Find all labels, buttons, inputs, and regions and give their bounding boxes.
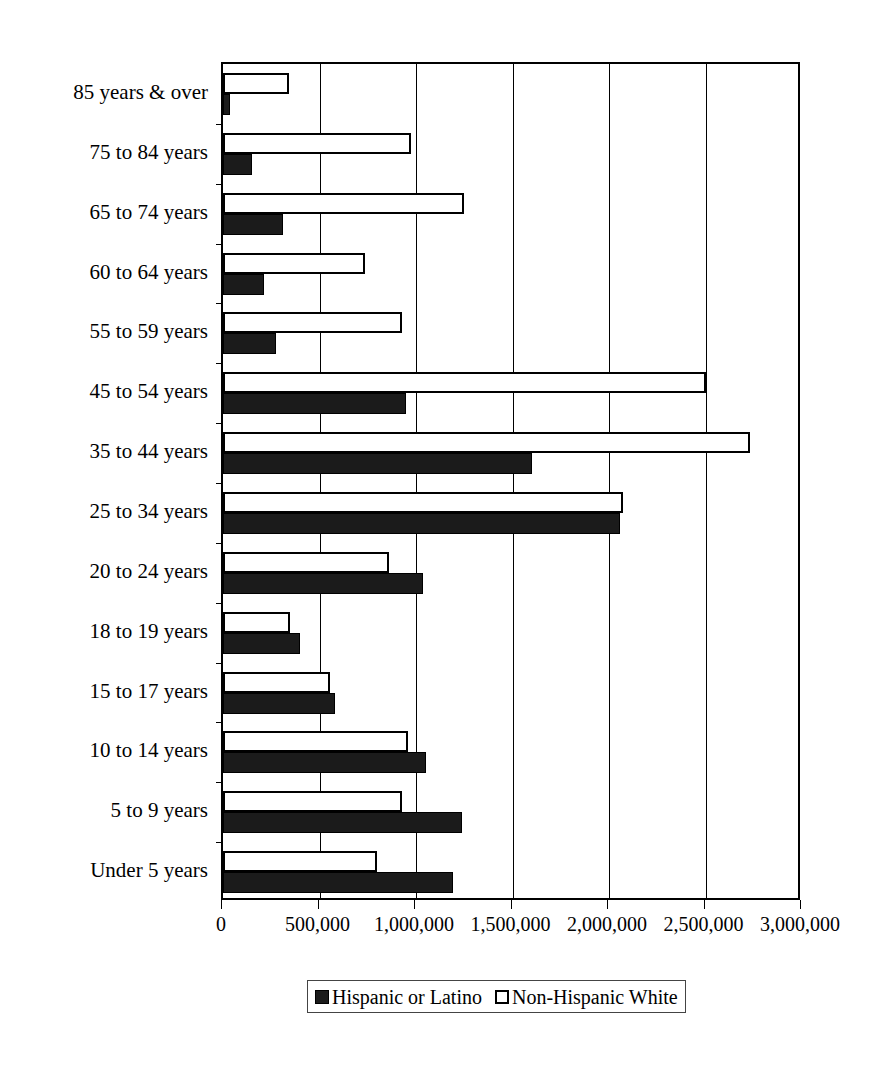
open-square-icon — [495, 990, 509, 1004]
x-axis-tick-label: 0 — [216, 913, 226, 935]
bar-hispanic-or-latino — [223, 274, 264, 295]
bar-hispanic-or-latino — [223, 513, 620, 534]
y-axis-tick — [216, 782, 223, 783]
bar-hispanic-or-latino — [223, 333, 276, 354]
x-axis-tick — [414, 900, 415, 909]
x-axis-tick-label: 2,000,000 — [567, 913, 647, 935]
x-axis-tick — [704, 900, 705, 909]
y-axis-tick-label: Under 5 years — [90, 860, 208, 881]
y-axis-tick — [216, 722, 223, 723]
gridline — [513, 64, 514, 898]
bar-hispanic-or-latino — [223, 393, 406, 414]
bar-non-hispanic-white — [223, 791, 402, 812]
y-axis-tick — [216, 483, 223, 484]
bar-non-hispanic-white — [223, 552, 389, 573]
y-axis-tick — [216, 244, 223, 245]
chart-legend: Hispanic or LatinoNon-Hispanic White — [307, 980, 686, 1013]
x-axis-tick-label: 2,500,000 — [664, 913, 744, 935]
x-axis-tick — [318, 900, 319, 909]
y-axis-tick-label: 20 to 24 years — [90, 561, 208, 582]
bar-hispanic-or-latino — [223, 214, 283, 235]
bar-non-hispanic-white — [223, 73, 289, 94]
x-axis-tick — [800, 900, 801, 909]
y-axis-tick-label: 15 to 17 years — [90, 681, 208, 702]
bar-non-hispanic-white — [223, 432, 750, 453]
legend-entry: Hispanic or Latino — [315, 987, 482, 1007]
bar-hispanic-or-latino — [223, 872, 453, 893]
x-axis-tick-label: 1,500,000 — [471, 913, 551, 935]
y-axis-tick — [216, 842, 223, 843]
y-axis-tick — [216, 184, 223, 185]
y-axis-tick — [216, 423, 223, 424]
y-axis-tick — [216, 543, 223, 544]
y-axis-tick — [216, 303, 223, 304]
gridline — [706, 64, 707, 898]
x-axis-tick — [221, 900, 222, 909]
bar-non-hispanic-white — [223, 193, 464, 214]
x-axis-tick-label: 3,000,000 — [760, 913, 840, 935]
x-axis-tick — [607, 900, 608, 909]
bar-hispanic-or-latino — [223, 94, 230, 115]
y-axis-tick-label: 5 to 9 years — [111, 800, 208, 821]
y-axis-tick — [216, 603, 223, 604]
bar-non-hispanic-white — [223, 672, 330, 693]
y-axis-tick-label: 55 to 59 years — [90, 321, 208, 342]
y-axis-labels: 85 years & over75 to 84 years65 to 74 ye… — [0, 62, 208, 900]
x-axis-tick — [511, 900, 512, 909]
y-axis-tick-label: 10 to 14 years — [90, 740, 208, 761]
bar-chart-figure: 85 years & over75 to 84 years65 to 74 ye… — [0, 0, 896, 1072]
bar-non-hispanic-white — [223, 372, 706, 393]
y-axis-tick-label: 75 to 84 years — [90, 142, 208, 163]
y-axis-tick-label: 85 years & over — [73, 82, 208, 103]
bar-non-hispanic-white — [223, 133, 411, 154]
bar-hispanic-or-latino — [223, 573, 423, 594]
x-axis-tick-label: 1,000,000 — [374, 913, 454, 935]
bar-non-hispanic-white — [223, 731, 408, 752]
bar-non-hispanic-white — [223, 612, 290, 633]
plot-area — [221, 62, 800, 900]
bar-non-hispanic-white — [223, 492, 623, 513]
bar-non-hispanic-white — [223, 851, 377, 872]
bar-hispanic-or-latino — [223, 752, 426, 773]
y-axis-tick-label: 60 to 64 years — [90, 262, 208, 283]
legend-entry: Non-Hispanic White — [495, 987, 678, 1007]
y-axis-tick — [216, 363, 223, 364]
bar-non-hispanic-white — [223, 312, 402, 333]
y-axis-tick-label: 35 to 44 years — [90, 441, 208, 462]
legend-label: Non-Hispanic White — [512, 987, 678, 1007]
bar-non-hispanic-white — [223, 253, 365, 274]
bar-hispanic-or-latino — [223, 633, 300, 654]
bar-hispanic-or-latino — [223, 453, 532, 474]
legend-label: Hispanic or Latino — [332, 987, 482, 1007]
gridline — [609, 64, 610, 898]
y-axis-tick-label: 25 to 34 years — [90, 501, 208, 522]
y-axis-tick — [216, 124, 223, 125]
x-axis-tick-label: 500,000 — [285, 913, 350, 935]
y-axis-tick — [216, 663, 223, 664]
filled-square-icon — [315, 990, 329, 1004]
y-axis-tick-label: 65 to 74 years — [90, 202, 208, 223]
bar-hispanic-or-latino — [223, 154, 252, 175]
bar-hispanic-or-latino — [223, 693, 335, 714]
y-axis-tick-label: 18 to 19 years — [90, 621, 208, 642]
bar-hispanic-or-latino — [223, 812, 462, 833]
y-axis-tick-label: 45 to 54 years — [90, 381, 208, 402]
